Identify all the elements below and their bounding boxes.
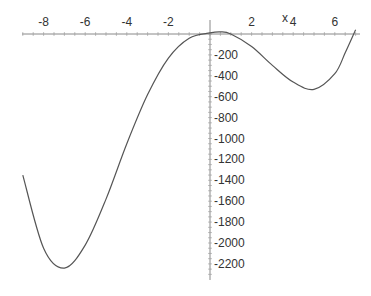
x-tick-label: -2 <box>163 15 174 29</box>
y-tick-label: -2000 <box>214 236 245 250</box>
x-tick-label: 2 <box>248 15 255 29</box>
y-tick-label: -600 <box>214 90 238 104</box>
y-tick-label: -1000 <box>214 132 245 146</box>
chart: -8-6-4-2246-200-400-600-800-1000-1200-14… <box>0 0 371 296</box>
y-tick-label: -400 <box>214 69 238 83</box>
x-tick-label: -6 <box>80 15 91 29</box>
axes: -8-6-4-2246-200-400-600-800-1000-1200-14… <box>22 11 360 280</box>
y-tick-label: -1800 <box>214 215 245 229</box>
y-tick-label: -2200 <box>214 257 245 271</box>
x-tick-label: 6 <box>331 15 338 29</box>
y-tick-label: -1400 <box>214 173 245 187</box>
y-tick-label: -1600 <box>214 194 245 208</box>
y-tick-label: -200 <box>214 48 238 62</box>
y-tick-label: -1200 <box>214 152 245 166</box>
data-curve <box>23 30 356 268</box>
x-tick-label: -4 <box>121 15 132 29</box>
x-axis-label: x <box>282 11 288 25</box>
y-tick-label: -800 <box>214 111 238 125</box>
x-tick-label: 4 <box>290 15 297 29</box>
x-tick-label: -8 <box>38 15 49 29</box>
